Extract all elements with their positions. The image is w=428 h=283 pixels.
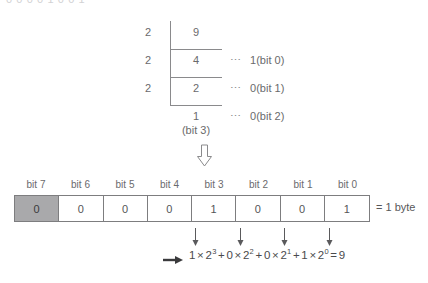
- bit-header-5: bit 5: [103, 179, 147, 190]
- binary-expansion-equation: 1×23+0×22+0×21+1×20=9: [189, 249, 345, 261]
- division-quotient-1: 9: [170, 26, 222, 38]
- eq-term-4-times: ×: [308, 249, 318, 261]
- remainder-text-3: 0(bit 2): [250, 110, 284, 122]
- bit-cell-4: 0: [148, 196, 192, 221]
- division-remainder-3: ⋯ 0(bit 2): [230, 110, 284, 123]
- division-rule-3: [170, 105, 222, 106]
- bit-header-0: bit 0: [326, 179, 370, 190]
- bit2-down-arrow-icon: [237, 228, 244, 246]
- division-quotient-3: 2: [170, 82, 222, 94]
- bit-header-3: bit 3: [192, 179, 236, 190]
- bit-header-4: bit 4: [148, 179, 192, 190]
- bit-cell-1: 0: [281, 196, 325, 221]
- bit-cell-0: 1: [325, 196, 369, 221]
- remainder-dots-3: ⋯: [230, 110, 242, 122]
- bit-cell-5: 0: [104, 196, 148, 221]
- bit-header-7: bit 7: [14, 179, 58, 190]
- bit-header-6: bit 6: [59, 179, 103, 190]
- eq-term-1-times: ×: [196, 249, 206, 261]
- bit-header-1: bit 1: [281, 179, 325, 190]
- division-quotient-4: 1: [170, 110, 222, 122]
- eq-plus-1: +: [217, 249, 227, 261]
- eq-equals: =: [329, 249, 339, 261]
- equation-lead-arrow-icon: [163, 251, 183, 269]
- bit-cell-6: 0: [59, 196, 103, 221]
- bit-cell-3: 1: [192, 196, 236, 221]
- bit-cell-7: 0: [15, 196, 59, 221]
- remainder-dots-2: ⋯: [230, 82, 242, 94]
- eq-term-4-coef: 1: [301, 249, 308, 261]
- eq-term-2-base: 2: [243, 249, 250, 261]
- bit1-down-arrow-icon: [281, 228, 288, 246]
- eq-plus-2: +: [254, 249, 264, 261]
- byte-table: 0 0 0 0 1 0 0 1: [14, 195, 370, 222]
- eq-term-2-times: ×: [233, 249, 243, 261]
- eq-term-1-exp: 3: [212, 247, 216, 256]
- eq-term-3-times: ×: [270, 249, 280, 261]
- remainder-text-1: 1(bit 0): [250, 54, 284, 66]
- division-divisor-1: 2: [141, 26, 155, 38]
- remainder-dots-1: ⋯: [230, 54, 242, 66]
- byte-equals-label: = 1 byte: [376, 201, 415, 213]
- bit0-down-arrow-icon: [326, 228, 333, 246]
- division-divisor-2: 2: [141, 54, 155, 66]
- eq-result: 9: [339, 249, 346, 261]
- binary-conversion-diagram: 0 0 0 0 1 0 0 1 2 2 2 9 4 2 1 (bit 3) ⋯ …: [0, 0, 428, 283]
- clipped-top-text: 0 0 0 0 1 0 0 1: [6, 0, 85, 5]
- eq-term-1-coef: 1: [189, 249, 196, 261]
- division-remainder-1: ⋯ 1(bit 0): [230, 54, 284, 67]
- bit-cell-2: 0: [236, 196, 280, 221]
- division-remainder-2: ⋯ 0(bit 1): [230, 82, 284, 95]
- eq-plus-3: +: [291, 249, 301, 261]
- bit-header-2: bit 2: [237, 179, 281, 190]
- flow-down-arrow-icon: [196, 144, 213, 172]
- division-quotient-2: 4: [170, 54, 222, 66]
- bit3-down-arrow-icon: [192, 228, 199, 246]
- division-rule-2: [170, 77, 222, 78]
- division-divisor-3: 2: [141, 82, 155, 94]
- remainder-text-2: 0(bit 1): [250, 82, 284, 94]
- division-final-bit-label: (bit 3): [170, 124, 222, 136]
- division-rule-1: [170, 49, 222, 50]
